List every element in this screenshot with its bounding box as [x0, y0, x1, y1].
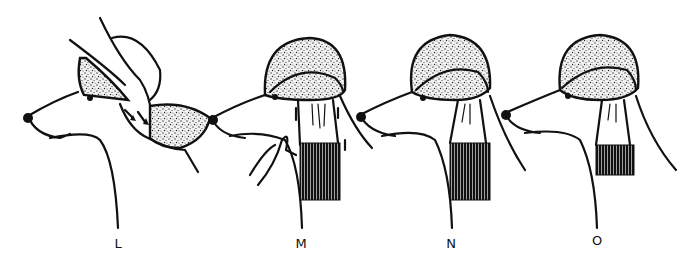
panel-label-o: O — [592, 233, 602, 248]
panel-label-n: N — [446, 236, 456, 251]
panel-n — [356, 35, 525, 228]
panel-m — [208, 38, 372, 228]
panel-label-m: M — [295, 236, 306, 251]
hand — [250, 137, 296, 185]
ear-band — [300, 143, 340, 200]
topknot-pom — [79, 58, 128, 100]
ear-band — [450, 143, 490, 200]
illustration-canvas — [0, 0, 692, 266]
panel-o — [501, 35, 676, 228]
panel-label-l: L — [114, 236, 121, 251]
ear-fur — [150, 105, 210, 149]
ear-band — [596, 145, 634, 175]
panel-l — [23, 18, 210, 228]
grooming-illustration: L M N O — [0, 0, 692, 266]
